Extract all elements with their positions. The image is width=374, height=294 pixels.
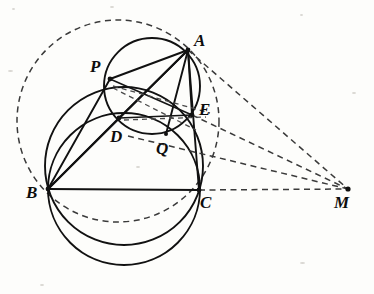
vertex-dot-q [164, 132, 168, 136]
scan-speck [12, 8, 15, 10]
scan-speck [110, 6, 114, 8]
vertex-dot-a [186, 48, 191, 53]
vertex-dot-m [345, 186, 350, 191]
geometry-figure: A B C D E M P Q [0, 0, 374, 294]
vertex-dot-d [117, 116, 122, 121]
point-label-e: E [199, 101, 210, 118]
vertex-dot-c [197, 188, 202, 193]
point-label-a: A [194, 32, 205, 49]
dashed-a-to-m [188, 50, 348, 189]
point-label-q: Q [156, 140, 168, 157]
scan-speck [136, 166, 140, 168]
scan-speck [352, 92, 356, 94]
segment-ap [110, 50, 188, 79]
point-label-m: M [334, 194, 349, 211]
vertex-dot-b [46, 187, 51, 192]
dashed-c-to-m [199, 189, 348, 190]
dashed-e-to-m [192, 115, 348, 189]
segment-bc [48, 189, 199, 190]
dashed-p-to-q [113, 88, 196, 130]
scan-speck [300, 14, 303, 16]
segment-bp [48, 79, 110, 189]
point-label-d: D [110, 128, 122, 145]
scan-speck [8, 70, 13, 72]
vertex-dot-e [190, 113, 195, 118]
scan-speck [300, 262, 305, 264]
geometry-canvas [0, 0, 374, 294]
segment-bd [48, 118, 119, 189]
point-label-c: C [200, 194, 211, 211]
point-label-p: P [90, 58, 100, 75]
vertex-dot-p [108, 77, 113, 82]
point-label-b: B [26, 184, 37, 201]
scan-speck [40, 284, 44, 286]
